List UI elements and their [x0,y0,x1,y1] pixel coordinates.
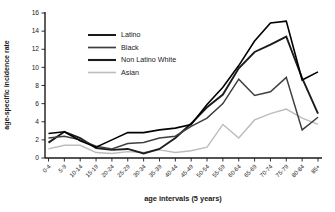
x-tick-label: 85+ [310,163,322,175]
x-tick-label: 80-84 [290,163,305,178]
y-tick-label: 6 [35,100,39,107]
series-line-black [49,77,319,149]
x-tick-label: 25-29 [116,163,131,178]
incidence-rate-figure: 0246810121416 0-45-910-1415-1920-2425-29… [0,0,335,212]
x-tick-label: 40-44 [164,163,179,178]
x-tick-label: 55-59 [211,163,226,178]
legend-item: Black [88,43,139,52]
incidence-line-chart: 0246810121416 0-45-910-1415-1920-2425-29… [0,0,335,212]
y-tick-label: 10 [32,64,40,71]
legend-item: Asian [88,68,139,77]
chart-legend: LatinoBlackNon Latino WhiteAsian [88,30,176,77]
legend-item: Non Latino White [88,55,176,64]
legend-label: Asian [121,68,139,77]
x-tick-label: 75-79 [275,163,290,178]
x-tick-label: 45-49 [179,163,194,178]
x-tick-label: 60-64 [227,163,242,178]
series-lines [49,21,319,153]
y-tick-label: 16 [32,9,40,16]
x-tick-label: 65-69 [243,163,258,178]
y-tick-label: 12 [32,45,40,52]
x-tick-label: 20-24 [100,163,115,178]
legend-label: Latino [121,30,141,39]
x-tick-label: 10-14 [69,163,84,178]
x-axis-title: age intervals (5 years) [144,194,222,203]
y-axis-title: age-specific incidence rate [3,40,11,130]
series-line-non-latino-white [49,37,319,154]
axes [45,12,322,158]
x-tick-label: 35-39 [148,163,163,178]
x-tick-label: 5-9 [57,163,67,173]
x-axis-ticks: 0-45-910-1415-1920-2425-2930-3435-3940-4… [41,158,321,178]
x-tick-label: 0-4 [41,163,52,174]
legend-label: Non Latino White [121,55,176,64]
x-tick-label: 70-74 [259,163,274,178]
y-tick-label: 2 [35,136,39,143]
y-tick-label: 14 [32,27,40,34]
legend-item: Latino [88,30,141,39]
y-tick-label: 0 [35,154,39,161]
x-tick-label: 30-34 [132,163,147,178]
y-axis-ticks: 0246810121416 [32,9,45,161]
y-tick-label: 8 [35,82,39,89]
x-tick-label: 50-54 [195,163,210,178]
y-tick-label: 4 [35,118,39,125]
x-tick-label: 15-19 [84,163,99,178]
legend-label: Black [121,43,139,52]
